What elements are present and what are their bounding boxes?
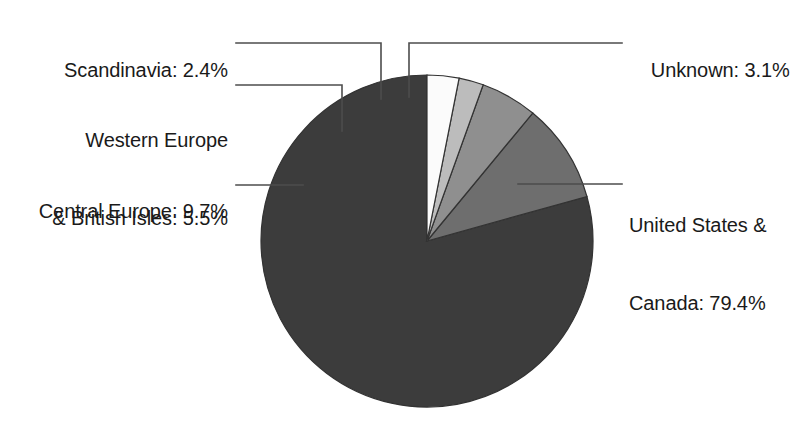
pie-label-western-europe-line1: Western Europe	[0, 127, 228, 153]
pie-label-central-europe-text: Central Europe: 9.7%	[39, 200, 228, 222]
pie-label-us-canada-line2: Canada: 79.4%	[629, 290, 792, 316]
pie-label-us-canada: United States & Canada: 79.4%	[629, 160, 792, 368]
pie-label-unknown: Unknown: 3.1%	[629, 31, 792, 109]
pie-label-central-europe: Central Europe: 9.7%	[0, 172, 228, 250]
pie-slices	[261, 75, 593, 407]
pie-label-unknown-text: Unknown: 3.1%	[651, 59, 790, 81]
pie-label-us-canada-line1: United States &	[629, 212, 792, 238]
pie-chart-figure: Scandinavia: 2.4% Western Europe & Briti…	[0, 0, 792, 440]
